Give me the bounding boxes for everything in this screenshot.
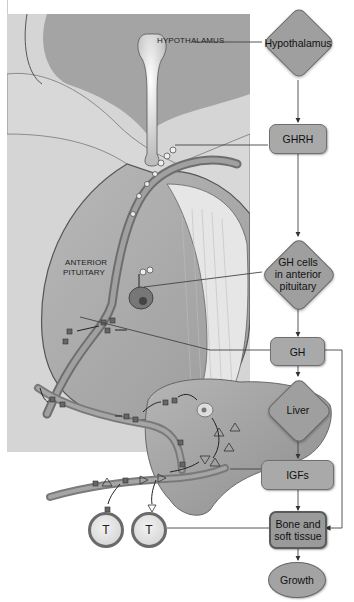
caption-frame [7,0,168,14]
node-hypothalamus: Hypothalamus [262,6,334,80]
node-ghrh: GHRH [269,124,327,154]
anatomy-panel: HYPOTHALAMUS ANTERIOR PITUITARY [7,14,250,452]
node-gh-cells-line1: GH cells [278,256,318,268]
node-gh-cells-label: GH cells in anterior pituitary [262,238,334,310]
node-growth: Growth [268,562,326,598]
node-bone-line1: Bone and [276,518,321,530]
node-gh-cells-line3: pituitary [280,280,317,292]
node-gh-cells: GH cells in anterior pituitary [262,238,334,310]
target-cell-2: T [131,512,167,548]
node-igfs: IGFs [261,460,334,490]
node-gh-cells-line2: in anterior [275,268,322,280]
node-liver-label: Liver [265,378,331,442]
anterior-pituitary-label-line2: PITUITARY [63,268,105,278]
node-gh: GH [270,337,325,366]
node-liver: Liver [265,378,331,442]
target-cell-1: T [88,512,124,548]
node-bone-line2: soft tissue [274,530,321,542]
node-hypothalamus-label: Hypothalamus [262,6,334,80]
hypothalamus-label: HYPOTHALAMUS [157,36,224,46]
anterior-pituitary-label-line1: ANTERIOR [65,258,107,268]
node-bone-soft-tissue: Bone and soft tissue [269,511,327,549]
anatomy-illustration [7,14,250,452]
